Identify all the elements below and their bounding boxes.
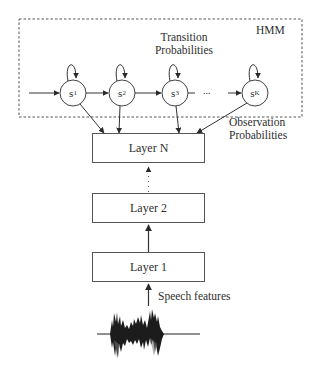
observation-label-line1: Observation: [229, 116, 287, 129]
layer-n-box: Layer N: [92, 133, 205, 163]
state-sk: sK: [242, 80, 268, 106]
observation-probabilities-label: Observation Probabilities: [229, 116, 287, 142]
state-sk-sub: K: [255, 89, 260, 97]
state-s3-sub: 3: [175, 89, 179, 97]
transition-label-line2: Probabilities: [148, 44, 220, 57]
hmm-title: HMM: [256, 24, 285, 37]
states-ellipsis: ...: [203, 84, 211, 97]
self-loop-s2: [116, 65, 125, 81]
transition-probabilities-label: Transition Probabilities: [148, 31, 220, 57]
speech-features-label: Speech features: [158, 290, 230, 303]
observation-arrows: [80, 103, 247, 133]
self-loop-arrows: [67, 65, 258, 81]
observation-label-line2: Probabilities: [229, 129, 287, 142]
speech-waveform-icon: [97, 309, 200, 358]
state-s2-sub: 2: [122, 89, 126, 97]
obs-arrow-s2: [119, 106, 120, 133]
obs-arrow-s3: [176, 106, 179, 133]
state-s2: s2: [109, 80, 135, 106]
self-loop-sk: [249, 65, 258, 81]
self-loop-s3: [169, 65, 178, 81]
layer-2-box: Layer 2: [92, 193, 205, 223]
obs-arrow-s1: [80, 104, 104, 133]
state-s3: s3: [162, 80, 188, 106]
state-s1-sub: 1: [73, 89, 77, 97]
state-s1: s1: [60, 80, 86, 106]
layer-1-box: Layer 1: [92, 252, 205, 282]
self-loop-s1: [67, 65, 76, 81]
transition-label-line1: Transition: [148, 31, 220, 44]
